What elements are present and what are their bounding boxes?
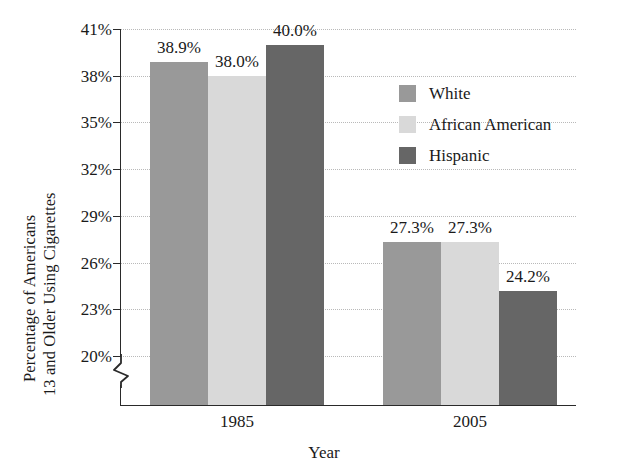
legend-label: African American [429,116,551,133]
legend-label: White [429,85,471,102]
bar-value-label: 40.0% [273,22,317,39]
bar [383,242,441,405]
y-axis-tick-label: 41% [56,21,112,38]
y-axis-title-line-1: Percentage of Americans [20,215,40,382]
gridline [121,29,576,30]
bar-chart: Percentage of Americans 13 and Older Usi… [0,0,620,473]
bar-value-label: 38.0% [215,53,259,70]
bar-value-label: 27.3% [390,219,434,236]
bar [441,242,499,405]
bar [266,45,324,405]
legend-swatch [399,85,416,102]
x-axis-line [120,405,576,406]
x-axis-tick-label: 1985 [220,412,254,432]
x-axis-title-text: Year [308,443,339,462]
y-axis-tick-label: 35% [56,114,112,131]
legend-item: Hispanic [399,140,609,171]
y-axis-title: Percentage of Americans 13 and Older Usi… [0,0,60,420]
legend-item: African American [399,109,609,140]
legend-label: Hispanic [429,147,489,164]
legend-swatch [399,116,416,133]
y-axis-tick-labels: 41%38%35%32%29%26%23%20% [56,0,112,473]
legend-swatch [399,147,416,164]
y-axis-line [120,29,121,356]
x-axis-tick-label: 2005 [453,412,487,432]
y-axis-tick-label: 20% [56,348,112,365]
y-axis-line-lower [120,385,121,406]
bar [208,76,266,405]
x-axis-title: Year [0,443,620,463]
y-axis-tick-label: 32% [56,161,112,178]
y-axis-tick-label: 38% [56,67,112,84]
bar-value-label: 24.2% [506,268,550,285]
bar-value-label: 27.3% [448,219,492,236]
y-axis-tick-label: 26% [56,254,112,271]
y-axis-tick-label: 23% [56,301,112,318]
bar-value-label: 38.9% [157,39,201,56]
legend-item: White [399,78,609,109]
bar [499,291,557,405]
y-axis-tick-label: 29% [56,207,112,224]
bar [150,62,208,405]
legend: WhiteAfrican AmericanHispanic [399,78,609,171]
axis-break-icon [112,354,130,388]
